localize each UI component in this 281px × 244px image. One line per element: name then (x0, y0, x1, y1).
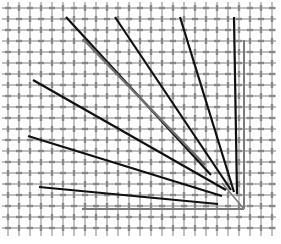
grid-knot (128, 225, 130, 231)
grid-knot (29, 38, 31, 44)
grid-knot (93, 139, 99, 141)
grid-knot (73, 16, 75, 22)
grid-knot (104, 18, 110, 20)
grid-knot (38, 18, 44, 20)
grid-knot (27, 73, 33, 75)
radiating-lines-diagram (0, 0, 281, 244)
grid-knot (104, 40, 110, 42)
grid-knot (84, 225, 86, 231)
grid-knot (225, 117, 231, 119)
grid-knot (170, 40, 176, 42)
grid-knot (73, 38, 75, 44)
grid-knot (137, 183, 143, 185)
grid-knot (203, 139, 209, 141)
grid-knot (93, 183, 99, 185)
grid-knot (62, 27, 64, 33)
grid-knot (117, 104, 119, 110)
grid-knot (170, 172, 176, 174)
grid-knot (49, 95, 55, 97)
grid-knot (27, 51, 33, 53)
grid-knot (117, 60, 119, 66)
grid-knot (104, 84, 110, 86)
grid-knot (49, 29, 55, 31)
grid-knot (139, 148, 141, 154)
grid-knot (7, 60, 9, 66)
grid-knot (115, 139, 121, 141)
grid-knot (49, 227, 55, 229)
grid-knot (236, 194, 242, 196)
grid-knot (95, 148, 97, 154)
grid-knot (106, 27, 108, 33)
grid-knot (139, 104, 141, 110)
grid-knot (183, 192, 185, 198)
grid-knot (271, 104, 273, 110)
grid-knot (95, 16, 97, 22)
grid-knot (192, 40, 198, 42)
grid-knot (62, 49, 64, 55)
grid-knot (269, 227, 275, 229)
grid-knot (172, 27, 174, 33)
diagram-canvas (0, 0, 281, 244)
grid-knot (181, 161, 187, 163)
grid-knot (106, 71, 108, 77)
grid-knot (60, 128, 66, 130)
grid-knot (16, 194, 22, 196)
grid-knot (115, 117, 121, 119)
grid-knot (227, 126, 229, 132)
grid-knot (249, 16, 251, 22)
grid-knot (117, 214, 119, 220)
grid-knot (260, 225, 262, 231)
grid-knot (51, 148, 53, 154)
grid-knot (148, 40, 154, 42)
grid-knot (49, 205, 55, 207)
grid-knot (216, 49, 218, 55)
grid-knot (51, 104, 53, 110)
grid-knot (62, 71, 64, 77)
grid-knot (73, 214, 75, 220)
grid-knot (49, 139, 55, 141)
grid-knot (40, 203, 42, 209)
grid-knot (247, 117, 253, 119)
grid-knot (150, 27, 152, 33)
grid-knot (29, 170, 31, 176)
grid-knot (216, 71, 218, 77)
grid-knot (16, 172, 22, 174)
grid-knot (258, 62, 264, 64)
grid-knot (161, 38, 163, 44)
grid-knot (181, 95, 187, 97)
grid-knot (16, 84, 22, 86)
grid-knot (183, 148, 185, 154)
grid-knot (5, 73, 11, 75)
grid-knot (150, 49, 152, 55)
grid-knot (216, 5, 218, 11)
grid-knot (29, 60, 31, 66)
grid-knot (236, 216, 242, 218)
grid-knot (161, 60, 163, 66)
grid-knot (38, 194, 44, 196)
grid-knot (51, 38, 53, 44)
grid-knot (62, 181, 64, 187)
grid-knot (150, 159, 152, 165)
grid-knot (60, 106, 66, 108)
grid-knot (225, 7, 231, 9)
grid-knot (194, 27, 196, 33)
grid-knot (214, 216, 220, 218)
grid-knot (194, 49, 196, 55)
grid-knot (51, 126, 53, 132)
grid-knot (271, 170, 273, 176)
grid-knot (38, 106, 44, 108)
grid-knot (161, 170, 163, 176)
grid-knot (7, 170, 9, 176)
grid-knot (247, 7, 253, 9)
grid-knot (170, 194, 176, 196)
grid-knot (225, 95, 231, 97)
grid-knot (27, 95, 33, 97)
grid-knot (18, 71, 20, 77)
grid-knot (126, 216, 132, 218)
grid-knot (214, 40, 220, 42)
grid-knot (269, 7, 275, 9)
grid-knot (238, 159, 240, 165)
grid-knot (258, 172, 264, 174)
grid-knot (236, 84, 242, 86)
grid-knot (93, 95, 99, 97)
